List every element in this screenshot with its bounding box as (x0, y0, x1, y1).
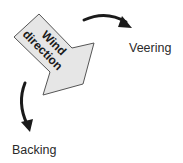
backing-label: Backing (12, 144, 56, 157)
backing-curved-arrow-icon (21, 83, 33, 132)
veering-curved-arrow-icon (84, 15, 132, 28)
veering-label: Veering (129, 42, 171, 55)
wind-diagram-canvas: Wind direction (0, 0, 183, 163)
